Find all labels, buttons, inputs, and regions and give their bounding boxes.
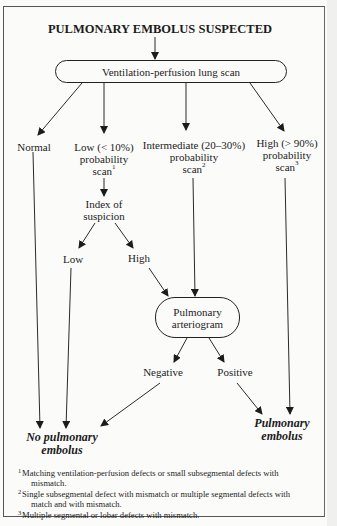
footnote-1-line2: mismatch. bbox=[22, 478, 322, 488]
high-line1: High (> 90%) bbox=[250, 137, 324, 149]
node-vq-scan-label: Ventilation-perfusion lung scan bbox=[102, 66, 240, 78]
high-line2: probability bbox=[250, 149, 324, 161]
diagram-title: PULMONARY EMBOLUS SUSPECTED bbox=[0, 23, 320, 35]
footnote-ref-2: 2 bbox=[202, 161, 206, 169]
node-positive: Positive bbox=[212, 366, 258, 378]
low-line1: Low (< 10%) bbox=[64, 141, 144, 153]
arteriogram-line2: arteriogram bbox=[172, 318, 223, 330]
footnote-ref-3: 3 bbox=[295, 159, 299, 167]
footnote-2: 2 Single subsegmental defect with mismat… bbox=[22, 489, 322, 509]
node-vq-scan: Ventilation-perfusion lung scan bbox=[55, 60, 287, 83]
node-index-high: High bbox=[124, 252, 154, 264]
footnote-ref-1: 1 bbox=[112, 163, 116, 171]
outcome-no-pulmonary-embolus: No pulmonary embolus bbox=[22, 431, 102, 457]
footnote-3: 3 Multiple segmental or lobar defects wi… bbox=[22, 510, 322, 520]
footnote-3-line1: Multiple segmental or lobar defects with… bbox=[22, 510, 322, 520]
footnote-2-line2: match and with mismatch. bbox=[22, 499, 322, 509]
footnote-1-line1: Matching ventilation-perfusion defects o… bbox=[22, 468, 322, 478]
node-index-low: Low bbox=[58, 253, 88, 265]
node-low-probability: Low (< 10%) probability scan1 bbox=[64, 141, 144, 177]
node-intermediate-probability: Intermediate (20–30%) probability scan2 bbox=[136, 139, 252, 175]
node-normal: Normal bbox=[6, 141, 62, 153]
node-index-of-suspicion: Index of suspicion bbox=[74, 198, 134, 222]
low-line2: probability bbox=[64, 153, 144, 165]
index-line1: Index of bbox=[74, 198, 134, 210]
footnote-3-number: 3 bbox=[18, 508, 21, 518]
outcome-pulmonary-embolus: Pulmonary embolus bbox=[250, 417, 314, 443]
node-negative: Negative bbox=[138, 366, 188, 378]
node-pulmonary-arteriogram: Pulmonary arteriogram bbox=[155, 297, 240, 338]
intermediate-line2: probability bbox=[136, 151, 252, 163]
index-line2: suspicion bbox=[74, 210, 134, 222]
intermediate-line3: scan bbox=[182, 163, 202, 175]
footnote-2-number: 2 bbox=[18, 487, 21, 497]
low-line3: scan bbox=[92, 165, 112, 177]
pe-line2: embolus bbox=[250, 430, 314, 443]
footnote-1: 1 Matching ventilation-perfusion defects… bbox=[22, 468, 322, 488]
footnote-1-number: 1 bbox=[18, 466, 21, 476]
intermediate-line1: Intermediate (20–30%) bbox=[136, 139, 252, 151]
high-line3: scan bbox=[275, 161, 295, 173]
arteriogram-line1: Pulmonary bbox=[172, 306, 223, 318]
node-high-probability: High (> 90%) probability scan3 bbox=[250, 137, 324, 173]
no-pe-line2: embolus bbox=[22, 444, 102, 457]
footnote-2-line1: Single subsegmental defect with mismatch… bbox=[22, 489, 322, 499]
